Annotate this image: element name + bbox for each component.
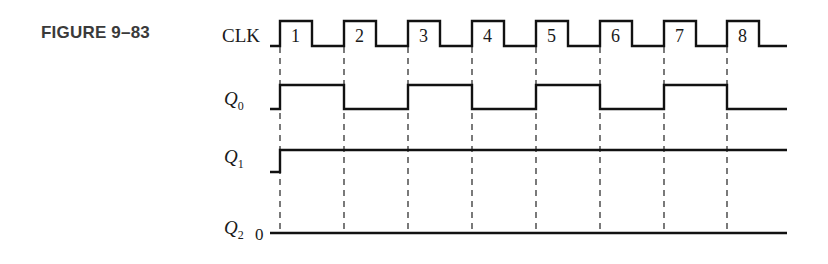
- clock-pulse-number: 4: [483, 26, 492, 46]
- waveforms: [270, 21, 787, 233]
- clock-pulse-number: 5: [547, 26, 556, 46]
- clock-pulse-number: 6: [611, 26, 620, 46]
- clock-pulse-number: 7: [675, 26, 684, 46]
- clk-waveform: [270, 21, 787, 46]
- q0-waveform: [270, 85, 787, 109]
- clock-pulse-number: 3: [419, 26, 428, 46]
- clock-pulse-number: 1: [291, 26, 300, 46]
- q1-waveform: [270, 150, 787, 172]
- timing-diagram: 12345678: [0, 0, 828, 264]
- clock-pulse-number: 8: [738, 26, 747, 46]
- clock-edge-dashed-lines: [280, 47, 727, 233]
- clock-pulse-numbers: 12345678: [291, 26, 747, 46]
- clock-pulse-number: 2: [355, 26, 364, 46]
